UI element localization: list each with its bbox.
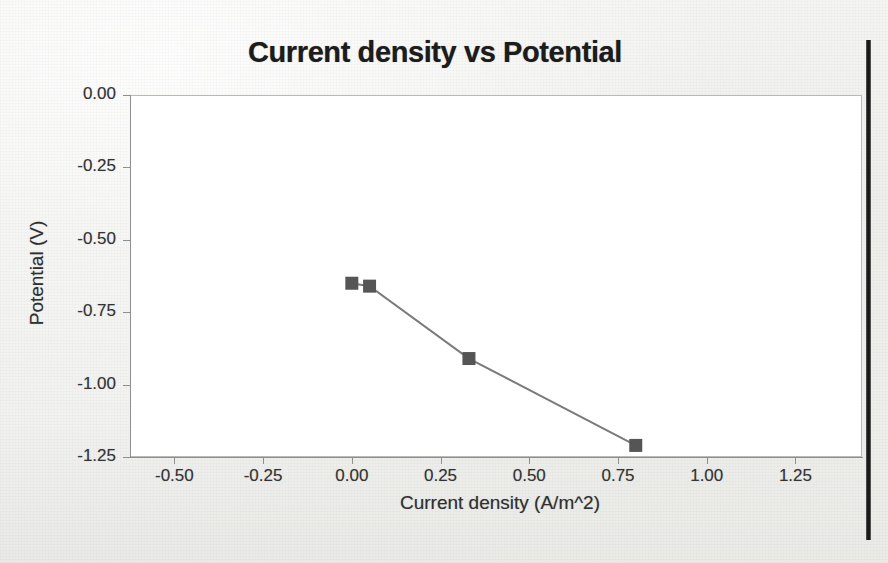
- y-tick-mark: [123, 167, 130, 168]
- x-tick-label: 0.00: [312, 466, 392, 486]
- y-tick-mark: [123, 240, 130, 241]
- x-tick-label: -0.50: [134, 466, 214, 486]
- data-point-marker: [629, 439, 642, 452]
- y-tick-label: -1.00: [46, 374, 116, 394]
- y-tick-label: 0.00: [46, 84, 116, 104]
- x-axis-line: [130, 457, 863, 458]
- x-tick-label: -0.25: [223, 466, 303, 486]
- y-tick-label: -0.75: [46, 301, 116, 321]
- series-line: [352, 283, 636, 445]
- data-point-marker: [462, 352, 475, 365]
- y-tick-label: -1.25: [46, 446, 116, 466]
- y-tick-mark: [123, 312, 130, 313]
- y-tick-label: -0.50: [46, 229, 116, 249]
- x-tick-label: 0.25: [401, 466, 481, 486]
- x-tick-mark: [618, 457, 619, 464]
- chart-title: Current density vs Potential: [150, 36, 720, 69]
- y-tick-mark: [123, 385, 130, 386]
- x-tick-label: 1.25: [755, 466, 835, 486]
- data-point-marker: [363, 280, 376, 293]
- x-tick-label: 1.00: [667, 466, 747, 486]
- x-tick-mark: [707, 457, 708, 464]
- data-point-marker: [345, 277, 358, 290]
- y-axis-title: Potential (V): [26, 173, 48, 373]
- x-tick-mark: [263, 457, 264, 464]
- x-tick-mark: [174, 457, 175, 464]
- series-potential: [345, 277, 642, 452]
- x-tick-mark: [441, 457, 442, 464]
- chart: Current density vs Potential 0.00-0.25-0…: [0, 0, 888, 563]
- y-tick-label: -0.25: [46, 156, 116, 176]
- y-tick-mark: [123, 457, 130, 458]
- x-axis-title: Current density (A/m^2): [180, 492, 820, 514]
- x-tick-mark: [352, 457, 353, 464]
- data-series-layer: [130, 95, 862, 457]
- y-tick-mark: [123, 95, 130, 96]
- x-tick-mark: [529, 457, 530, 464]
- x-tick-label: 0.75: [578, 466, 658, 486]
- x-tick-label: 0.50: [489, 466, 569, 486]
- x-tick-mark: [795, 457, 796, 464]
